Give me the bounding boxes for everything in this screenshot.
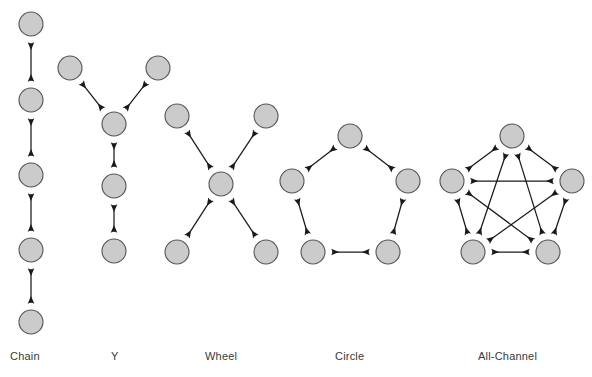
network-label-circle: Circle bbox=[335, 350, 364, 362]
node-w2[interactable] bbox=[254, 104, 278, 128]
node-group-all-channel bbox=[440, 124, 584, 264]
edge-y1-y3 bbox=[82, 83, 103, 109]
network-label-y: Y bbox=[111, 350, 119, 362]
node-c3[interactable] bbox=[19, 163, 43, 187]
edge-w3-w4 bbox=[187, 200, 210, 236]
network-label-chain: Chain bbox=[10, 350, 40, 362]
network-label-all-channel: All-Channel bbox=[478, 350, 537, 362]
edge-a2-a3 bbox=[554, 199, 566, 234]
edge-r2-r3 bbox=[393, 199, 403, 233]
edge-r5-r1 bbox=[307, 148, 335, 170]
node-a1[interactable] bbox=[500, 124, 524, 148]
node-r3[interactable] bbox=[376, 240, 400, 264]
node-a3[interactable] bbox=[536, 240, 560, 264]
node-c2[interactable] bbox=[19, 88, 43, 112]
node-y2[interactable] bbox=[146, 56, 170, 80]
node-y3[interactable] bbox=[102, 112, 126, 136]
edge-r1-r2 bbox=[365, 148, 393, 170]
edge-y2-y3 bbox=[126, 83, 147, 109]
node-c1[interactable] bbox=[19, 12, 43, 36]
edge-w3-w1 bbox=[187, 132, 210, 168]
node-group-circle bbox=[280, 124, 420, 264]
network-label-wheel: Wheel bbox=[205, 350, 237, 362]
node-a4[interactable] bbox=[461, 240, 485, 264]
network-canvas bbox=[0, 0, 592, 377]
node-r2[interactable] bbox=[396, 169, 420, 193]
edge-group-circle bbox=[297, 148, 402, 252]
edge-group-y bbox=[82, 83, 147, 232]
node-group-wheel bbox=[165, 104, 278, 264]
network-topology-diagram: ChainYWheelCircleAll-Channel bbox=[0, 0, 592, 377]
node-w3[interactable] bbox=[209, 172, 233, 196]
node-r5[interactable] bbox=[280, 169, 304, 193]
node-a5[interactable] bbox=[440, 169, 464, 193]
node-c5[interactable] bbox=[19, 310, 43, 334]
node-r1[interactable] bbox=[338, 124, 362, 148]
node-y4[interactable] bbox=[102, 174, 126, 198]
edge-a1-a3 bbox=[518, 154, 543, 234]
edge-a4-a5 bbox=[457, 199, 467, 234]
edge-a5-a1 bbox=[467, 147, 497, 169]
node-c4[interactable] bbox=[19, 238, 43, 262]
edge-r4-r5 bbox=[297, 199, 307, 234]
node-y1[interactable] bbox=[58, 56, 82, 80]
node-a2[interactable] bbox=[560, 169, 584, 193]
node-w5[interactable] bbox=[254, 240, 278, 264]
edge-a1-a2 bbox=[527, 147, 557, 169]
edge-group-all-channel bbox=[457, 147, 566, 252]
node-w4[interactable] bbox=[165, 240, 189, 264]
node-w1[interactable] bbox=[165, 104, 189, 128]
edge-w3-w5 bbox=[231, 200, 255, 236]
edge-a1-a4 bbox=[479, 154, 506, 234]
node-y5[interactable] bbox=[102, 239, 126, 263]
node-r4[interactable] bbox=[301, 240, 325, 264]
edge-w3-w2 bbox=[231, 132, 255, 168]
